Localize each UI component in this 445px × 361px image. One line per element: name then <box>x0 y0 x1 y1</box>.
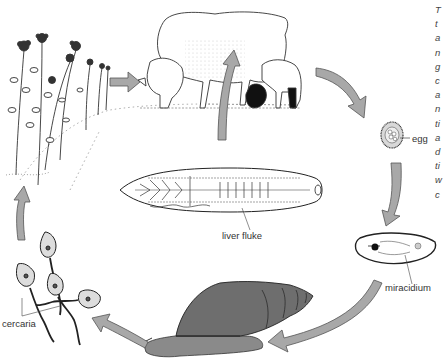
side-text-line: c <box>435 74 445 88</box>
side-text-line: ti <box>435 117 445 131</box>
egg-illustration <box>381 122 410 148</box>
sheep-illustration <box>138 12 301 108</box>
arrow-cercaria-to-vegetation <box>14 186 30 240</box>
vegetation-illustration <box>6 34 110 186</box>
side-caption-text: T t a n g c a n ti a d ti w c <box>435 3 445 202</box>
side-text-line: n <box>435 102 445 116</box>
side-text-line: g <box>435 60 445 74</box>
arrow-egg-to-miracidium <box>382 163 401 226</box>
side-text-line: d <box>435 145 445 159</box>
side-text-line: w <box>435 173 445 187</box>
side-text-line: T <box>435 3 445 17</box>
cercaria-label: cercaria <box>2 318 36 329</box>
arrow-snail-to-cercaria <box>92 314 148 348</box>
side-text-line: c <box>435 188 445 202</box>
arrow-sheep-to-egg <box>316 68 366 118</box>
side-text-line: n <box>435 46 445 60</box>
liver-fluke-label: liver fluke <box>222 230 262 241</box>
side-text-line: a <box>435 131 445 145</box>
miracidium-illustration <box>356 233 436 284</box>
life-cycle-diagram <box>0 0 445 361</box>
liver-fluke-illustration <box>120 168 322 230</box>
side-text-line: a <box>435 31 445 45</box>
egg-label: egg <box>412 133 428 144</box>
arrow-vegetation-to-sheep <box>110 72 140 92</box>
miracidium-label: miracidium <box>385 282 431 293</box>
side-text-line: a <box>435 88 445 102</box>
side-text-line: t <box>435 17 445 31</box>
side-text-line: ti <box>435 159 445 173</box>
